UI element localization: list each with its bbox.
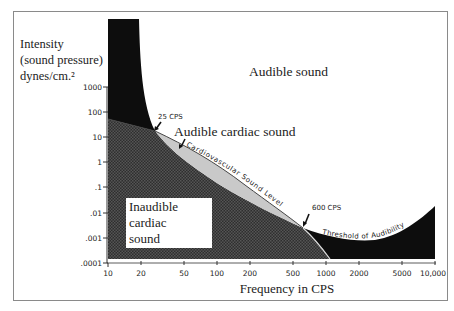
y-tick-0.0001: .0001 [81,259,103,268]
x-tick-10: 10 [103,269,113,278]
inaudible-label-line-2: cardiac [129,215,209,231]
y-tick-100: 100 [88,108,103,117]
left-inaudible-black-region [108,19,155,131]
x-tick-labels: 10 20 50 100 200 500 1000 2000 5000 10,0… [103,269,446,278]
audible-sound-label: Audible sound [249,64,328,80]
y-tick-10: 10 [92,133,102,142]
inaudible-cardiac-sound-label: Inaudible cardiac sound [126,198,212,248]
y-tick-0.001: .001 [85,234,102,243]
x-tick-100: 100 [210,269,225,278]
inaudible-label-line-1: Inaudible [129,199,209,215]
y-tick-0.1: .1 [95,183,102,192]
y-tick-0.01: .01 [90,209,102,218]
annotation-25cps: 25 CPS [158,113,183,121]
chart-plot: 1000 100 10 1 .1 .01 .001 .0001 10 20 50… [0,0,454,311]
x-tick-1000: 1000 [316,269,335,278]
x-tick-500: 500 [286,269,301,278]
inaudible-label-line-3: sound [129,231,209,247]
x-tick-20: 20 [136,269,146,278]
x-ticks [108,261,435,267]
x-tick-2000: 2000 [349,269,368,278]
x-tick-200: 200 [243,269,258,278]
y-tick-1: 1 [97,158,102,167]
x-tick-5000: 5000 [392,269,411,278]
x-axis-title: Frequency in CPS [0,281,454,297]
x-tick-10000: 10,000 [420,269,446,278]
y-tick-1000: 1000 [83,83,102,92]
x-tick-50: 50 [179,269,189,278]
audible-cardiac-sound-label: Audible cardiac sound [174,124,295,140]
annotation-600cps: 600 CPS [312,204,342,212]
y-tick-labels: 1000 100 10 1 .1 .01 .001 .0001 [81,83,103,268]
